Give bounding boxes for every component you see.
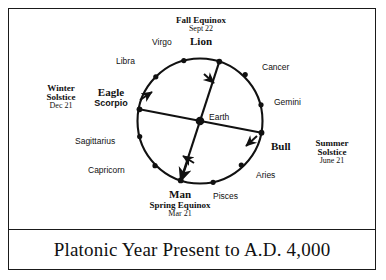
summer-solstice-date: June 21 xyxy=(303,157,361,165)
zodiac-dot-pisces xyxy=(211,180,216,185)
zodiac-dot-virgo xyxy=(181,58,186,63)
zodiac-label-capricorn: Capricorn xyxy=(88,166,125,175)
zodiac-dot-libra xyxy=(153,74,158,79)
zodiac-label-libra: Libra xyxy=(116,57,135,66)
zodiac-label-gemini: Gemini xyxy=(274,98,301,107)
zodiac-dot-aries xyxy=(239,162,244,167)
spring-equinox-date: Mar 21 xyxy=(130,210,230,218)
age-bull: Bull xyxy=(271,141,291,152)
zodiac-dot-capricorn xyxy=(152,163,157,168)
zodiac-dot-bull xyxy=(259,130,265,136)
zodiac-dot-sagittarius xyxy=(137,134,142,139)
marker-winter-solstice: Winter Solstice Dec 21 xyxy=(34,84,88,111)
zodiac-label-aries: Aries xyxy=(256,171,275,180)
precession-arrow-lion xyxy=(204,74,214,83)
earth-label: Earth xyxy=(209,113,229,122)
marker-fall-equinox: Fall Equinox Sept 22 xyxy=(159,16,243,33)
marker-spring-equinox: Spring Equinox Mar 21 xyxy=(130,201,230,218)
age-lion: Lion xyxy=(177,36,225,47)
zodiac-dot-eagle-scorpio xyxy=(137,106,143,112)
age-eagle-alt-scorpio: Scorpio xyxy=(86,99,136,108)
marker-summer-solstice: Summer Solstice June 21 xyxy=(303,139,361,166)
platonic-year-figure: Platonic Year Present to A.D. 4,000 xyxy=(0,0,386,280)
zodiac-label-sagittarius: Sagittarius xyxy=(75,137,115,146)
zodiac-dot-gemini xyxy=(258,102,263,107)
precession-arrow-bull xyxy=(246,136,257,146)
age-eagle: Eagle xyxy=(88,87,134,98)
zodiac-label-virgo: Virgo xyxy=(152,38,172,47)
earth-marker xyxy=(196,117,205,126)
zodiac-label-pisces: Pisces xyxy=(213,192,238,201)
age-man: Man xyxy=(156,189,204,200)
fall-equinox-date: Sept 22 xyxy=(159,25,243,33)
winter-solstice-date: Dec 21 xyxy=(34,102,88,110)
zodiac-dot-cancer xyxy=(243,72,248,77)
zodiac-label-cancer: Cancer xyxy=(262,63,289,72)
zodiac-dot-man xyxy=(178,178,184,184)
zodiac-dot-lion xyxy=(216,59,222,65)
